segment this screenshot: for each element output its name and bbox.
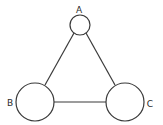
edge-a-b — [45, 33, 74, 85]
triangle-graph-diagram: A B C — [0, 0, 163, 125]
node-b — [16, 83, 54, 121]
nodes — [16, 15, 144, 121]
node-c-label: C — [147, 99, 153, 109]
edges — [45, 33, 115, 102]
node-b-label: B — [7, 98, 13, 108]
node-a — [70, 15, 90, 35]
edge-a-c — [86, 33, 115, 85]
node-a-label: A — [76, 5, 83, 15]
node-c — [106, 83, 144, 121]
